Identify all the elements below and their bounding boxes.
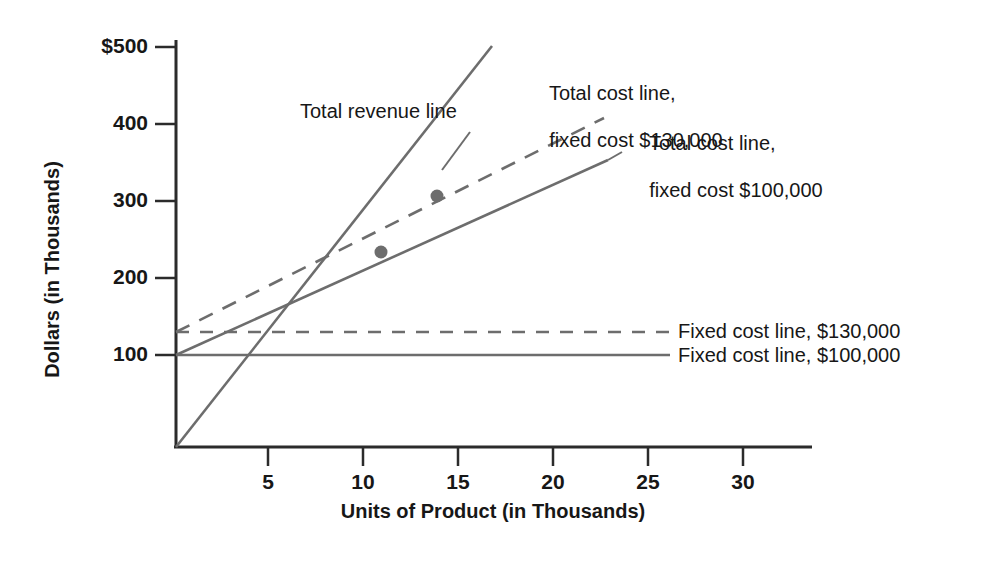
chart-plot-area xyxy=(0,0,998,568)
point-breakeven-100k xyxy=(431,190,444,203)
series-total-cost-100k xyxy=(176,160,608,355)
x-tick-label-10: 10 xyxy=(333,470,393,494)
chart-container: $500 400 300 200 100 5 10 15 20 25 30 Do… xyxy=(0,0,998,568)
x-tick-label-20: 20 xyxy=(523,470,583,494)
x-tick-label-30: 30 xyxy=(713,470,773,494)
annotation-total-cost-100k-line1: Total cost line, xyxy=(649,132,776,154)
leader-total-revenue xyxy=(442,132,470,170)
point-breakeven-130k xyxy=(375,246,388,259)
x-axis-title: Units of Product (in Thousands) xyxy=(173,500,813,523)
x-tick-label-5: 5 xyxy=(238,470,298,494)
annotation-fixed-cost-100k: Fixed cost line, $100,000 xyxy=(678,344,900,368)
y-tick-label-200: 200 xyxy=(60,265,148,289)
y-tick-label-400: 400 xyxy=(60,111,148,135)
annotation-total-revenue-line: Total revenue line xyxy=(300,100,457,124)
y-tick-label-300: 300 xyxy=(60,188,148,212)
y-tick-label-500: $500 xyxy=(60,34,148,58)
x-tick-label-25: 25 xyxy=(618,470,678,494)
x-tick-label-15: 15 xyxy=(428,470,488,494)
annotation-total-cost-130k-line1: Total cost line, xyxy=(549,82,676,104)
y-axis-title: Dollars (in Thousands) xyxy=(41,140,64,400)
y-tick-label-100: 100 xyxy=(60,342,148,366)
annotation-total-cost-100k: Total cost line, fixed cost $100,000 xyxy=(627,108,823,226)
annotation-total-cost-100k-line2: fixed cost $100,000 xyxy=(649,179,822,201)
annotation-fixed-cost-130k: Fixed cost line, $130,000 xyxy=(678,320,900,344)
